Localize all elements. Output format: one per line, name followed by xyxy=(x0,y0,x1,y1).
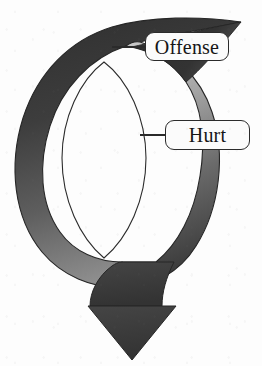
callout-offense-label: Offense xyxy=(155,37,219,57)
callout-hurt[interactable]: Hurt xyxy=(165,120,250,150)
callout-hurt-label: Hurt xyxy=(189,125,226,145)
callout-offense[interactable]: Offense xyxy=(145,32,229,61)
hurt-leader-line xyxy=(140,134,167,136)
arrowhead xyxy=(88,306,176,360)
loop-inner-hole xyxy=(62,62,146,258)
offense-leader-line xyxy=(112,46,147,48)
diagram-canvas: Offense Hurt xyxy=(0,0,262,366)
